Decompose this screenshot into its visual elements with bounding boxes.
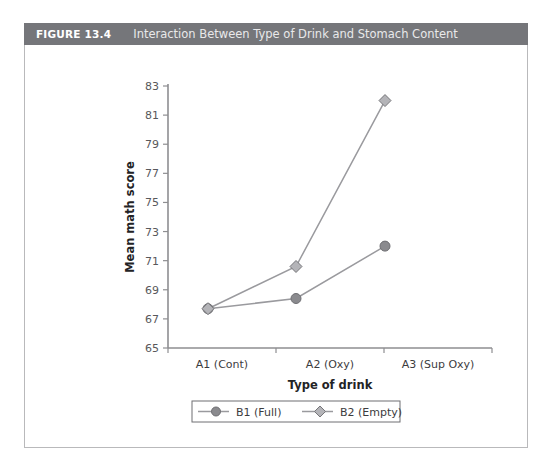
- figure-frame: [24, 23, 528, 448]
- figure-title: Interaction Between Type of Drink and St…: [133, 27, 458, 41]
- figure-number-label: FIGURE 13.4: [36, 28, 111, 40]
- figure-header-bar: FIGURE 13.4 Interaction Between Type of …: [24, 23, 528, 45]
